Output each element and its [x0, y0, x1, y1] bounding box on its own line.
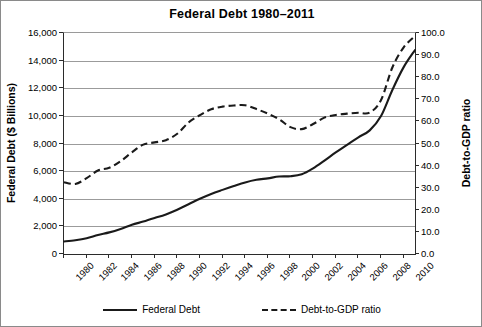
- right-axis-tick-label: 10.0: [421, 225, 461, 236]
- chart-legend: Federal Debt Debt-to-GDP ratio: [1, 304, 482, 315]
- left-axis-tick-label: 2,000: [5, 220, 57, 231]
- legend-swatch-solid-icon: [103, 309, 137, 311]
- x-axis-tick-label: 1996: [254, 260, 277, 283]
- left-axis-tick-label: 4,000: [5, 192, 57, 203]
- x-axis-tick-label: 1980: [73, 260, 96, 283]
- right-axis-title: Debt-to-GDP ratio: [460, 98, 472, 186]
- right-axis-tick-label: 20.0: [421, 203, 461, 214]
- x-axis-tick-label: 2010: [413, 260, 436, 283]
- series-line-federal-debt: [64, 50, 415, 241]
- legend-label-debt-to-gdp-ratio: Debt-to-GDP ratio: [301, 304, 381, 315]
- legend-label-federal-debt: Federal Debt: [142, 304, 200, 315]
- right-axis-tick-label: 60.0: [421, 115, 461, 126]
- x-axis-tick-label: 1992: [209, 260, 232, 283]
- left-axis-tick-label: 8,000: [5, 137, 57, 148]
- legend-swatch-dashed-icon: [262, 309, 296, 311]
- x-axis-tick-label: 2006: [368, 260, 391, 283]
- right-axis-tick-label: 90.0: [421, 49, 461, 60]
- legend-item-federal-debt: Federal Debt: [103, 304, 200, 315]
- x-axis-tick-label: 1994: [232, 260, 255, 283]
- x-axis-tick-label: 2000: [300, 260, 323, 283]
- plot-area: [63, 32, 416, 255]
- x-axis-tick-label: 2004: [345, 260, 368, 283]
- right-axis-tick-label: 40.0: [421, 159, 461, 170]
- x-axis-tick-label: 1984: [118, 260, 141, 283]
- right-axis-tick-label: 100.0: [421, 27, 461, 38]
- x-axis-tick-label: 1986: [141, 260, 164, 283]
- right-axis-tick-label: 70.0: [421, 93, 461, 104]
- left-axis-tick-label: 0: [5, 248, 57, 259]
- right-axis-tick-label: 50.0: [421, 137, 461, 148]
- x-axis-tick-label: 2002: [322, 260, 345, 283]
- left-axis-tick-label: 12,000: [5, 82, 57, 93]
- x-axis-tick-label: 1982: [96, 260, 119, 283]
- x-axis-tick-label: 1988: [164, 260, 187, 283]
- right-axis-tick-label: 30.0: [421, 181, 461, 192]
- chart-container: Federal Debt 1980–2011 Federal Debt ($ B…: [0, 0, 482, 327]
- chart-title: Federal Debt 1980–2011: [1, 7, 482, 21]
- left-axis-tick-label: 16,000: [5, 27, 57, 38]
- legend-item-debt-to-gdp-ratio: Debt-to-GDP ratio: [262, 304, 381, 315]
- left-axis-tick-label: 6,000: [5, 165, 57, 176]
- x-axis-tick-label: 1998: [277, 260, 300, 283]
- right-axis-tick-label: 80.0: [421, 71, 461, 82]
- left-axis-tick-label: 14,000: [5, 54, 57, 65]
- right-axis-tick-label: 0.0: [421, 248, 461, 259]
- series-line-debt-to-gdp-ratio: [64, 36, 415, 184]
- left-axis-tick-label: 10,000: [5, 109, 57, 120]
- x-axis-tick-label: 1990: [186, 260, 209, 283]
- series-layer: [64, 33, 415, 254]
- x-axis-tick-label: 2008: [390, 260, 413, 283]
